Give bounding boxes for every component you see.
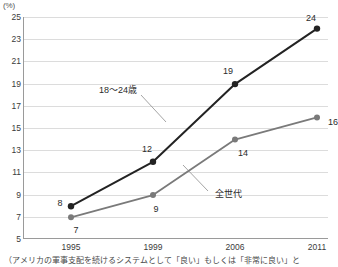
- series-annotation-all-generations: 全世代: [215, 187, 242, 200]
- series-annotation-youth: 18〜24歳: [99, 83, 137, 96]
- value-label-allgen-1995: 7: [73, 225, 78, 235]
- data-point-youth-2006: [232, 81, 238, 87]
- gridlines: [23, 18, 328, 218]
- y-tick-19: 19: [1, 79, 21, 88]
- annotation-leader-line-youth: [141, 95, 166, 122]
- y-tick-7: 7: [1, 212, 21, 221]
- chart-caption: （アメリカの軍事支配を続けるシステムとして「良い」もしくは「非常に良い」と: [4, 255, 338, 266]
- y-tick-9: 9: [1, 190, 21, 199]
- data-point-allgen-2006: [232, 137, 238, 143]
- y-axis-tick-labels: 25 23 21 19 17 15 13 11 9 7 5: [0, 17, 21, 239]
- y-axis-unit-label: (%): [3, 1, 15, 10]
- series-line-youth: [68, 25, 320, 209]
- x-axis-tick-labels: 1995 1999 2006 2011: [23, 242, 328, 256]
- y-tick-13: 13: [1, 146, 21, 155]
- data-point-allgen-1999: [150, 192, 156, 198]
- value-label-allgen-1999: 9: [153, 204, 158, 214]
- chart-plot-svg: [23, 17, 328, 239]
- line-path-youth: [71, 29, 317, 207]
- data-point-allgen-2011: [314, 114, 320, 120]
- y-tick-21: 21: [1, 57, 21, 66]
- plot-area: 8 12 19 24 7 9 14 16 18〜24歳 全世代: [23, 17, 328, 239]
- chart-figure: (%) 25 23 21 19 17 15 13 11 9 7 5: [0, 0, 338, 267]
- series-line-all-generations: [68, 114, 320, 220]
- data-point-youth-2011: [314, 25, 320, 31]
- value-label-youth-2011: 24: [306, 13, 316, 23]
- value-label-youth-1999: 12: [142, 144, 152, 154]
- y-tick-11: 11: [1, 168, 21, 177]
- y-tick-23: 23: [1, 35, 21, 44]
- value-label-youth-1995: 8: [57, 198, 62, 208]
- data-point-youth-1995: [68, 203, 74, 209]
- value-label-youth-2006: 19: [223, 66, 233, 76]
- data-point-allgen-1995: [68, 214, 74, 220]
- y-tick-15: 15: [1, 124, 21, 133]
- y-tick-17: 17: [1, 101, 21, 110]
- x-tick-1995: 1995: [62, 242, 81, 252]
- y-tick-5: 5: [1, 235, 21, 244]
- value-label-allgen-2011: 16: [328, 117, 338, 127]
- value-label-allgen-2006: 14: [238, 148, 248, 158]
- x-tick-2006: 2006: [226, 242, 245, 252]
- x-tick-1999: 1999: [144, 242, 163, 252]
- x-tick-2011: 2011: [308, 242, 326, 252]
- data-point-youth-1999: [150, 159, 156, 165]
- line-path-all-generations: [71, 117, 317, 217]
- y-tick-25: 25: [1, 13, 21, 22]
- annotation-leader-line-allgen: [183, 165, 208, 191]
